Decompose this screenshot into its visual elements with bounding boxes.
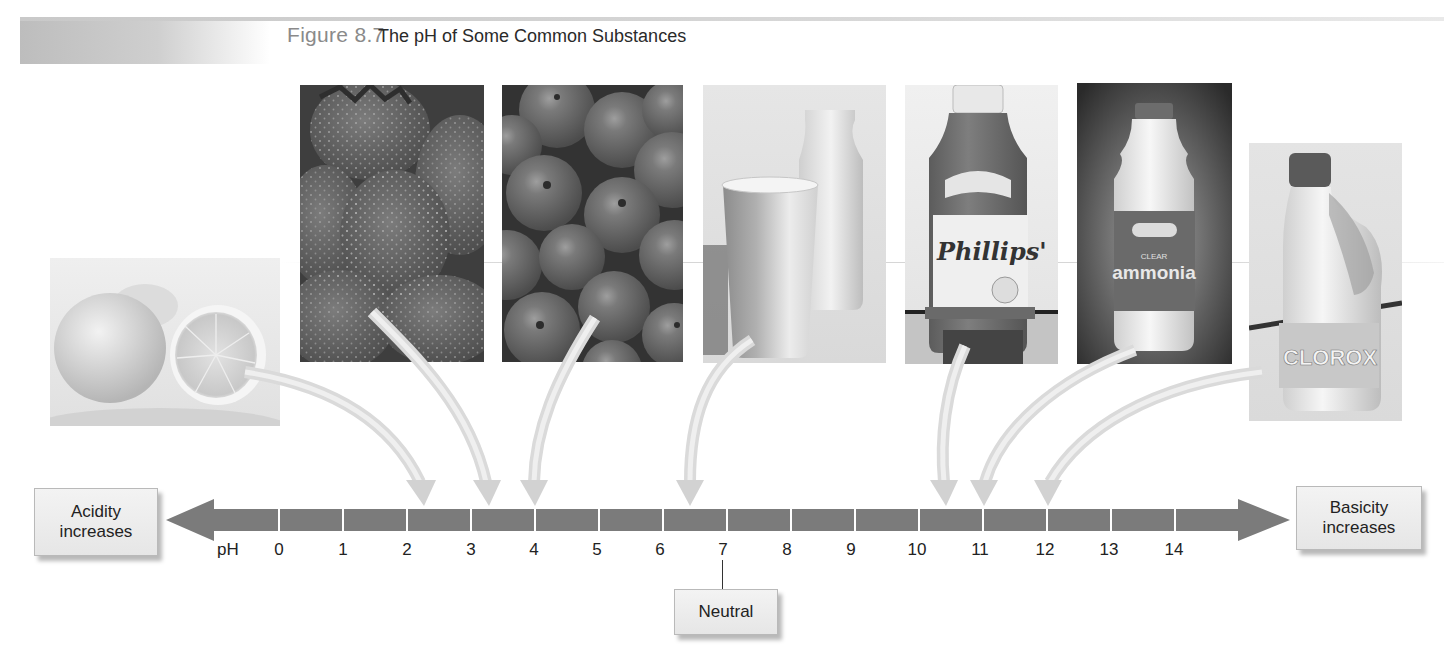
figure-title: The pH of Some Common Substances xyxy=(378,26,686,47)
tick-4: 4 xyxy=(529,540,538,560)
phillips-bottle-photo: Phillips' xyxy=(905,85,1058,364)
neutral-tick-line xyxy=(722,560,723,589)
ammonia-bottle-photo: CLEAR ammonia xyxy=(1077,83,1232,364)
tick-3: 3 xyxy=(466,540,475,560)
lemons-photo xyxy=(50,258,280,426)
tick-5: 5 xyxy=(592,540,601,560)
tick-6: 6 xyxy=(655,540,664,560)
clorox-bottle-photo: CLOROX xyxy=(1249,143,1402,421)
tick-14: 14 xyxy=(1165,540,1184,560)
tick-13: 13 xyxy=(1100,540,1119,560)
pointer-arrowheads xyxy=(406,480,1062,506)
tick-12: 12 xyxy=(1036,540,1055,560)
neutral-callout: Neutral xyxy=(674,589,778,635)
strawberries-photo xyxy=(300,85,484,362)
tick-1: 1 xyxy=(338,540,347,560)
left-arrowhead xyxy=(166,499,278,541)
tomatoes-photo xyxy=(502,85,683,362)
right-arrowhead xyxy=(1176,499,1290,541)
tick-0: 0 xyxy=(274,540,283,560)
header-band xyxy=(20,21,270,64)
tick-8: 8 xyxy=(782,540,791,560)
milk-photo xyxy=(703,85,886,363)
tick-2: 2 xyxy=(402,540,411,560)
svg-text:CLEAR: CLEAR xyxy=(1141,252,1168,261)
figure-number: Figure 8.7 xyxy=(287,23,385,47)
svg-text:Phillips': Phillips' xyxy=(936,237,1047,266)
tick-11: 11 xyxy=(971,540,989,560)
ph-bar xyxy=(166,499,1290,541)
tick-9: 9 xyxy=(846,540,855,560)
tick-7: 7 xyxy=(718,540,727,560)
svg-text:ammonia: ammonia xyxy=(1112,262,1196,283)
acidity-callout: Acidity increases xyxy=(34,488,158,556)
tick-10: 10 xyxy=(908,540,927,560)
basicity-callout: Basicity increases xyxy=(1296,486,1422,550)
svg-text:CLOROX: CLOROX xyxy=(1283,345,1377,370)
ph-axis-label: pH xyxy=(217,540,239,560)
